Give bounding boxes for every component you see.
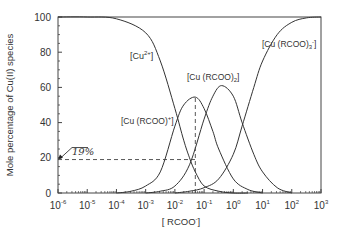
x-tick-label: 100 [226,199,241,211]
y-tick-label: 20 [40,152,52,163]
y-tick-label: 80 [40,47,52,58]
curve-series-2 [146,86,292,193]
y-tick-label: 0 [45,188,51,199]
x-tick-label: 102 [285,199,300,211]
speciation-chart: 020406080100 10-610-510-410-310-210-1100… [0,0,338,239]
curve-series-1 [116,97,262,193]
y-tick-label: 40 [40,117,52,128]
x-tick-label: 10-1 [196,199,213,211]
x-axis-label: [ RCOO-] [162,216,200,227]
label-curcoo: [Cu (RCOO)+] [121,115,174,126]
x-tick-label: 10-5 [79,199,96,211]
arrowhead-icon [58,155,63,160]
x-tick-label: 103 [314,199,329,211]
x-axis-ticks: 10-610-510-410-310-210-1100101102103 [50,189,329,211]
x-tick-label: 10-2 [167,199,184,211]
x-tick-label: 10-6 [50,199,67,211]
y-tick-label: 60 [40,82,52,93]
curve-series-0 [58,17,248,193]
x-tick-label: 10-3 [137,199,154,211]
label-curcoo3: [Cu (RCOO)3-] [262,39,316,50]
y-tick-label: 100 [34,12,51,23]
label-cu2: [Cu2+] [130,50,153,61]
y-axis-label: Mole percentage of Cu(II) species [4,33,15,176]
annotation-19-percent: 19% [72,146,94,157]
x-tick-label: 101 [255,199,270,211]
label-curcoo2: [Cu (RCOO)2] [187,72,239,83]
x-tick-label: 10-4 [108,199,125,211]
